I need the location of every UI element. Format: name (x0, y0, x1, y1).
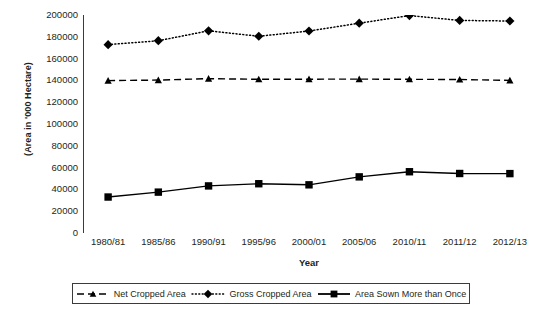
data-point (505, 16, 514, 25)
y-tick-label: 120000 (26, 97, 78, 107)
legend-label: Gross Cropped Area (229, 289, 311, 299)
data-point (255, 180, 262, 187)
data-point (254, 32, 263, 41)
chart-axes (83, 15, 535, 233)
y-tick-label: 200000 (26, 10, 78, 20)
series-gross-cropped-area (104, 15, 515, 49)
data-point (406, 168, 413, 175)
data-point (205, 182, 212, 189)
series-net-cropped-area (105, 75, 514, 84)
y-tick-label: 160000 (26, 54, 78, 64)
legend-item-area-sown-more-than-once[interactable]: Area Sown More than Once (317, 289, 466, 299)
series-area-sown-more-than-once (104, 168, 513, 201)
legend-label: Net Cropped Area (114, 289, 186, 299)
y-axis-tick-labels: 0200004000060000800001000001200001400001… (22, 0, 78, 250)
data-point (506, 170, 513, 177)
x-tick-label: 2012/13 (480, 236, 540, 247)
plot-area (83, 15, 535, 233)
x-axis-tick-labels: 1980/811985/861990/911995/962000/012005/… (83, 236, 535, 252)
data-point (355, 19, 364, 28)
y-tick-label: 40000 (26, 184, 78, 194)
y-tick-label: 20000 (26, 206, 78, 216)
plot-svg (83, 15, 535, 233)
legend-item-net-cropped-area[interactable]: Net Cropped Area (76, 289, 186, 299)
y-tick-label: 60000 (26, 163, 78, 173)
y-tick-label: 80000 (26, 141, 78, 151)
data-point (104, 40, 113, 49)
x-axis-title: Year (83, 257, 535, 268)
legend-marker-square-icon (317, 289, 351, 299)
data-point (104, 193, 111, 200)
data-point (154, 36, 163, 45)
data-point (155, 188, 162, 195)
legend-item-gross-cropped-area[interactable]: Gross Cropped Area (191, 289, 311, 299)
y-tick-label: 100000 (26, 119, 78, 129)
data-point (204, 26, 213, 35)
data-point (455, 16, 464, 25)
y-tick-label: 140000 (26, 75, 78, 85)
data-point (305, 181, 312, 188)
y-tick-label: 0 (26, 228, 78, 238)
y-tick-label: 180000 (26, 32, 78, 42)
chart-legend: Net Cropped AreaGross Cropped AreaArea S… (72, 283, 470, 304)
legend-marker-diamond-icon (191, 289, 225, 299)
chart-container: (Area in '000 Hectare) 02000040000600008… (0, 0, 542, 316)
data-point (456, 170, 463, 177)
data-point (405, 15, 414, 20)
legend-label: Area Sown More than Once (355, 289, 466, 299)
legend-marker-triangle-icon (76, 289, 110, 299)
data-point (304, 26, 313, 35)
data-point (356, 173, 363, 180)
